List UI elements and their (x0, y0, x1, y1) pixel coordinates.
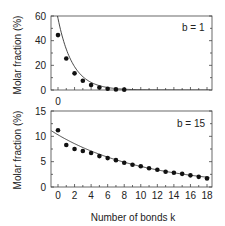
y-tick-label: 0 (40, 85, 46, 96)
x-tick-label: 0 (55, 190, 61, 201)
fit-curve (51, 0, 209, 90)
top-panel: 0204060 (35, 0, 212, 96)
data-point (97, 154, 102, 159)
figure: 0204060 051015024681012141618 b = 1 b = … (0, 0, 225, 226)
data-point (56, 33, 61, 38)
y-axis-label-top: Molar fraction (%) (12, 16, 23, 95)
data-point (138, 164, 143, 169)
x-tick-label: 14 (168, 190, 180, 201)
data-point (89, 83, 94, 88)
x-tick-label: 6 (105, 190, 111, 201)
data-point (89, 151, 94, 156)
x-axis-label: Number of bonds k (91, 212, 176, 223)
x-tick-label: 4 (88, 190, 94, 201)
data-point (196, 175, 201, 180)
data-point (97, 85, 102, 90)
data-point (81, 78, 86, 83)
data-point (72, 71, 77, 76)
y-tick-label: 15 (35, 106, 47, 117)
data-point (172, 171, 177, 176)
data-point (155, 167, 160, 172)
x-tick-label: 18 (201, 190, 213, 201)
y-tick-label: 40 (35, 35, 47, 46)
x-tick-label: 10 (135, 190, 147, 201)
y-tick-label: 5 (40, 156, 46, 167)
data-point (122, 87, 127, 92)
y-tick-label: 10 (35, 131, 47, 142)
data-point (105, 156, 110, 161)
x-tick-label: 16 (185, 190, 197, 201)
bottom-annotation: b = 15 (177, 118, 206, 129)
data-point (81, 149, 86, 154)
data-point (72, 147, 77, 152)
y-axis-label-bottom: Molar fraction (%) (12, 111, 23, 190)
data-point (56, 128, 61, 133)
data-point (180, 172, 185, 177)
data-point (147, 166, 152, 171)
data-point (64, 143, 69, 148)
data-point (64, 56, 69, 61)
y-tick-label: 0 (40, 182, 46, 193)
top-x-tick-label: 0 (55, 96, 61, 107)
data-point (130, 162, 135, 167)
x-tick-label: 12 (152, 190, 164, 201)
data-point (188, 173, 193, 178)
data-point (114, 158, 119, 163)
y-tick-label: 20 (35, 60, 47, 71)
data-point (163, 170, 168, 175)
x-tick-label: 8 (121, 190, 127, 201)
fit-curve (51, 131, 209, 178)
top-annotation: b = 1 (182, 22, 205, 33)
x-tick-label: 2 (72, 190, 78, 201)
data-point (205, 176, 210, 181)
data-point (122, 160, 127, 165)
y-tick-label: 60 (35, 11, 47, 22)
data-point (105, 86, 110, 91)
data-point (114, 87, 119, 92)
